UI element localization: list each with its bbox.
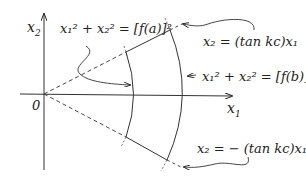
inner-arc	[126, 52, 134, 137]
x1-axis	[20, 94, 232, 96]
outer-arc-leader	[188, 75, 196, 76]
inner-arc-leader	[78, 46, 130, 85]
upper-ray-dashed	[44, 52, 126, 94]
inner-tick-top	[124, 46, 127, 56]
inner-tick-bot	[121, 137, 126, 147]
lower-ray-segment	[126, 137, 167, 160]
lower-ray-equation: x₂ = − (tan kc)x₁	[197, 142, 306, 155]
outer-arc-equation: x₁² + x₂² = [f(b)]²	[202, 70, 306, 83]
upper-ray-equation: x₂ = (tan kc)x₁	[203, 35, 298, 48]
x1-axis-label: x1	[227, 101, 241, 115]
outer-tick-bot	[161, 160, 167, 171]
lower-ray-dashed-ext	[167, 160, 183, 168]
lower-ray-dashed	[44, 94, 126, 137]
inner-arc-equation: x₁² + x₂² = [f(a)]²	[60, 22, 172, 35]
lower-ray-leader	[184, 157, 248, 167]
x2-axis-label: x2	[27, 20, 41, 34]
origin-label: 0	[32, 99, 40, 112]
upper-ray-leader	[183, 19, 254, 30]
